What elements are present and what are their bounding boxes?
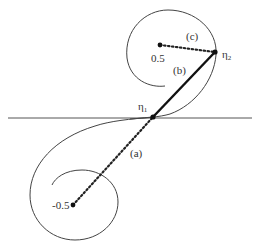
segment-b-label: (b) [173,64,186,77]
segment-c-dotted-line [160,45,215,52]
eta1-label: η1 [138,100,148,114]
eta2-subscript: 2 [228,54,232,62]
eta2-label: η2 [222,48,232,62]
center-lower-label: -0.5 [52,199,70,211]
center-upper-point [158,43,163,48]
segment-c-label: (c) [186,30,199,43]
eta1-point [150,114,155,119]
clothoid-diagram: 0.5 -0.5 η1 η2 (a) (b) (c) [0,0,258,248]
center-lower-point [71,203,76,208]
eta1-subscript: 1 [144,106,148,114]
center-upper-label: 0.5 [151,52,165,64]
segment-a-dotted-line [73,117,153,205]
eta2-point [212,49,217,54]
lower-spiral-curve [30,117,153,240]
segment-a-label: (a) [130,147,143,160]
